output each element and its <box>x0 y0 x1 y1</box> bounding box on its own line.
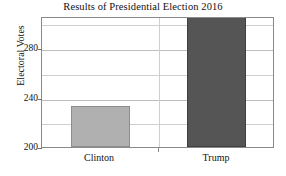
plot-area <box>41 17 274 148</box>
y-tick-label: 280 <box>14 44 38 54</box>
bar-clinton[interactable] <box>71 106 130 147</box>
y-tick-label: 240 <box>14 94 38 104</box>
bar-trump[interactable] <box>187 17 246 147</box>
y-tick-mark <box>38 49 42 50</box>
x-tick-mark <box>158 148 159 152</box>
x-tick-label-trump: Trump <box>176 152 256 163</box>
x-tick-label-clinton: Clinton <box>59 152 139 163</box>
chart-title: Results of Presidential Election 2016 <box>0 1 286 12</box>
y-tick-label: 200 <box>14 143 38 153</box>
category-separator <box>159 18 160 147</box>
bar-chart: Results of Presidential Election 2016 El… <box>0 0 286 176</box>
y-tick-mark <box>38 99 42 100</box>
y-tick-mark <box>38 148 42 149</box>
y-axis-ticks: 200240280 <box>12 17 38 148</box>
